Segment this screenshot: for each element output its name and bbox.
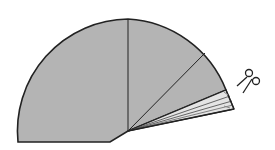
- fan-fold-diagram: [0, 0, 275, 150]
- scissors-icon: [237, 70, 260, 94]
- paper-sector: [17, 19, 226, 142]
